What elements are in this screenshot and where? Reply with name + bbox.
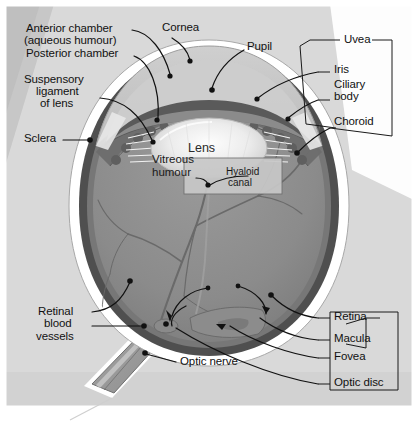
dot-optic-nerve [142,350,148,356]
dot-anterior-chamber [167,73,172,78]
dot-vitreous-hyaloid [205,182,210,187]
label-of-lens: of lens [40,98,73,110]
dot-fovea-inner [236,284,241,289]
dot-pupil [209,87,215,93]
dot-choroid [294,150,300,156]
label-fovea: Fovea [334,351,365,363]
label-posterior-chamber: Posterior chamber [26,48,118,60]
dot-optic-disc [163,321,169,327]
label-sclera: Sclera [24,133,56,145]
label-canal: canal [228,178,252,189]
dot-cornea [187,58,192,63]
label-body: body [334,91,359,103]
label-uvea: Uvea [344,34,370,46]
label-optic-disc: Optic disc [334,377,384,389]
label-macula: Macula [334,333,370,345]
label-vitreous: Vitreous [152,154,194,166]
label-cornea: Cornea [162,22,199,34]
dot-retinal-vessels-2 [141,323,147,329]
label-aqueous-humour: (aqueous humour) [24,35,116,47]
dot-macula-inner [206,286,211,291]
dot-sclera [87,137,93,143]
dot-retina [268,292,274,298]
eye-anatomy-diagram: Anterior chamber (aqueous humour) Poster… [0,0,418,431]
label-hyaloid: Hyaloid [226,167,259,178]
dot-retinal-vessels-1 [127,278,133,284]
dot-ciliary-body [285,116,290,121]
label-iris: Iris [334,64,349,76]
dot-posterior-chamber [154,117,159,122]
label-blood: blood [44,318,72,330]
label-humour: humour [152,167,191,179]
label-choroid: Choroid [334,116,374,128]
label-vessels: vessels [36,331,74,343]
label-optic-nerve: Optic nerve [180,356,238,368]
dot-iris [254,96,259,101]
label-pupil: Pupil [247,41,272,53]
label-retina: Retina [334,311,367,323]
dot-suspensory-ligament [150,139,155,144]
